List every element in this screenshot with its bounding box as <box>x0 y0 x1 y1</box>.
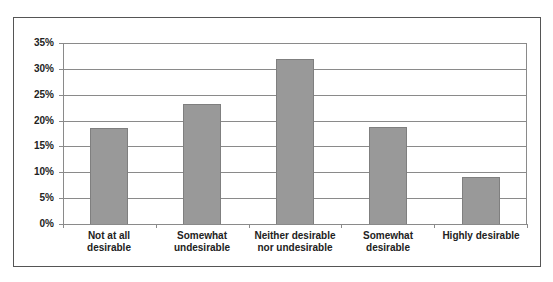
x-tick-mark <box>341 224 342 228</box>
bar-4 <box>369 127 407 224</box>
x-tick-mark <box>527 224 528 228</box>
x-tick-mark <box>434 224 435 228</box>
x-category-label: Highly desirable <box>426 230 536 242</box>
x-tick-mark <box>156 224 157 228</box>
bar-2 <box>183 104 221 224</box>
bar-5 <box>462 177 500 224</box>
x-tick-mark <box>249 224 250 228</box>
x-tick-mark <box>63 224 64 228</box>
y-tick-label: 30% <box>14 63 54 75</box>
y-tick-label: 15% <box>14 140 54 152</box>
y-tick-label: 35% <box>14 37 54 49</box>
y-tick-label: 20% <box>14 115 54 127</box>
y-tick-label: 25% <box>14 89 54 101</box>
y-axis <box>63 43 64 224</box>
bar-3 <box>276 59 314 224</box>
y-tick-label: 10% <box>14 166 54 178</box>
y-tick-label: 0% <box>14 218 54 230</box>
y-tick-label: 5% <box>14 192 54 204</box>
bar-1 <box>90 128 128 224</box>
x-axis <box>63 224 527 225</box>
gridline <box>63 43 527 44</box>
